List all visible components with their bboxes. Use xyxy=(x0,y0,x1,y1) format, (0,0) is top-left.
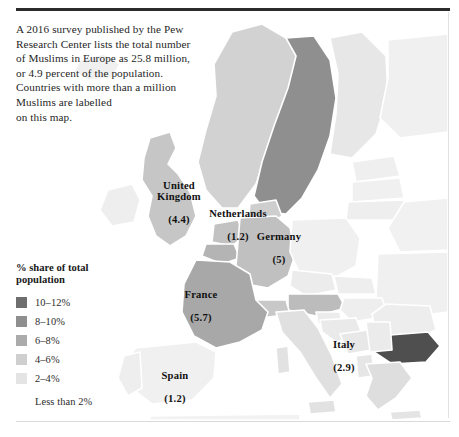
legend-label-6-8: 6–8% xyxy=(35,335,60,346)
legend-label-2-4: 2–4% xyxy=(35,373,60,384)
legend-swatch-6-8 xyxy=(16,335,27,346)
map-label-netherlands-country: Netherlands xyxy=(197,208,279,220)
map-label-germany: Germany (5) xyxy=(248,219,310,277)
legend-item-6-8: 6–8% xyxy=(16,331,144,350)
legend-swatch-10-12 xyxy=(16,297,27,308)
legend-swatch-2-4 xyxy=(16,373,27,384)
legend-swatch-less-than-2 xyxy=(16,396,27,407)
intro-paragraph: A 2016 survey published by the Pew Resea… xyxy=(16,22,231,124)
legend-label-less-than-2: Less than 2% xyxy=(35,396,92,407)
legend-item-4-6: 4–6% xyxy=(16,350,144,369)
map-label-italy-country: Italy xyxy=(320,339,368,351)
country-russia-west xyxy=(380,34,448,138)
map-label-france-country: France xyxy=(170,289,232,301)
legend-item-less-than-2: Less than 2% xyxy=(16,392,144,411)
legend-label-4-6: 4–6% xyxy=(35,354,60,365)
legend-item-10-12: 10–12% xyxy=(16,293,144,312)
country-latvia xyxy=(352,178,404,202)
legend-label-8-10: 8–10% xyxy=(35,316,65,327)
legend-title: % share of total population xyxy=(16,262,122,287)
country-crete xyxy=(390,410,422,420)
country-slovakia xyxy=(334,276,376,294)
map-label-france: France (5.7) xyxy=(170,277,232,335)
legend-item-8-10: 8–10% xyxy=(16,312,144,331)
top-divider-rule xyxy=(16,8,450,11)
muslim-population-europe-map: United Kingdom (4.4) Netherlands (1.2) G… xyxy=(0,0,459,437)
map-label-france-value: (5.7) xyxy=(170,312,232,324)
legend-swatch-8-10 xyxy=(16,316,27,327)
map-label-italy: Italy (2.9) xyxy=(320,327,368,385)
map-label-spain: Spain (1.2) xyxy=(148,358,202,416)
map-label-germany-country: Germany xyxy=(248,231,310,243)
map-label-spain-country: Spain xyxy=(148,370,202,382)
map-label-spain-value: (1.2) xyxy=(148,393,202,405)
map-label-germany-value: (5) xyxy=(248,254,310,266)
country-sicily xyxy=(308,400,336,414)
legend-swatch-4-6 xyxy=(16,354,27,365)
map-label-italy-value: (2.9) xyxy=(320,362,368,374)
legend-label-10-12: 10–12% xyxy=(35,297,70,308)
country-sardinia xyxy=(276,346,290,374)
right-divider-rule xyxy=(448,12,449,418)
country-serbia xyxy=(366,322,392,352)
map-legend: % share of total population 10–12% 8–10%… xyxy=(16,262,144,411)
bottom-divider-rule xyxy=(16,421,450,422)
legend-item-2-4: 2–4% xyxy=(16,369,144,388)
